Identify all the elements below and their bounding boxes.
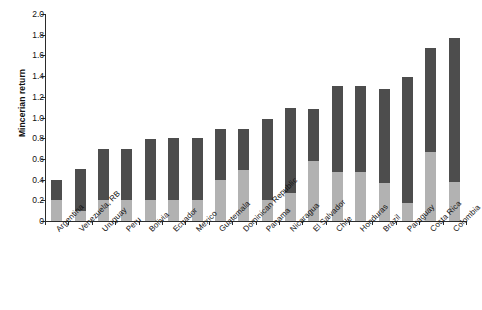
bar-segment-upper <box>449 38 460 182</box>
bar-segment-upper <box>355 86 366 172</box>
bar-segment-upper <box>402 77 413 203</box>
bar-segment-upper <box>145 139 156 200</box>
y-axis-tick-label: 1.2 <box>10 93 44 102</box>
y-axis-line <box>45 14 46 221</box>
bar-segment-lower <box>402 203 413 221</box>
bar-segment-upper <box>425 48 436 152</box>
y-axis-tick-label: 0.8 <box>10 134 44 143</box>
bar <box>145 139 156 221</box>
bar <box>51 180 62 221</box>
y-axis-tick-label: 0.6 <box>10 155 44 164</box>
y-axis-tick-label: 0.4 <box>10 176 44 185</box>
bar-segment-upper <box>262 119 273 201</box>
bar <box>168 138 179 221</box>
bar-segment-upper <box>308 109 319 161</box>
bar-segment-upper <box>192 138 203 200</box>
plot-area: 00.20.40.60.81.01.21.41.61.82.0 <box>45 14 466 221</box>
bar-segment-lower <box>355 172 366 221</box>
bar <box>355 86 366 221</box>
bar-segment-upper <box>121 149 132 201</box>
bar-segment-lower <box>51 200 62 221</box>
bar-segment-upper <box>332 86 343 172</box>
y-axis-tick-label: 1.8 <box>10 31 44 40</box>
bar-segment-upper <box>379 89 390 183</box>
x-axis-tick <box>45 221 46 225</box>
bar-segment-upper <box>215 129 226 180</box>
y-axis-tick-label: 1.4 <box>10 72 44 81</box>
bar <box>215 129 226 221</box>
bar-segment-lower <box>168 200 179 221</box>
bar-segment-upper <box>51 180 62 201</box>
bar-segment-lower <box>145 200 156 221</box>
y-axis-tick-label: 1.0 <box>10 114 44 123</box>
bar <box>425 48 436 221</box>
y-axis-tick-label: 1.6 <box>10 51 44 60</box>
y-axis-tick-label: 2.0 <box>10 10 44 19</box>
y-axis-tick-label: 0.2 <box>10 196 44 205</box>
bar <box>402 77 413 221</box>
bar-segment-upper <box>238 129 249 170</box>
bar <box>285 108 296 221</box>
bar-segment-upper <box>168 138 179 200</box>
bar <box>449 38 460 221</box>
bar <box>379 89 390 221</box>
y-axis-tick-label: 0 <box>10 217 44 226</box>
bar-segment-upper <box>98 149 109 201</box>
